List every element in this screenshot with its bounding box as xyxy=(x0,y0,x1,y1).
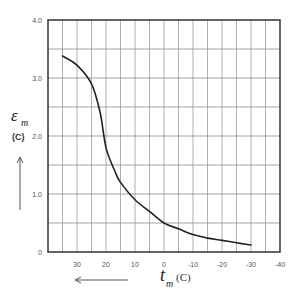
line-chart: 01.02.03.04.0 3020100-10-20-30-40 ε m (C… xyxy=(0,0,297,300)
y-axis-unit: (C) xyxy=(12,132,25,142)
y-axis-tick-labels: 01.02.03.04.0 xyxy=(32,17,42,256)
y-axis-subscript: m xyxy=(21,117,28,128)
x-tick-label: 10 xyxy=(131,261,139,268)
y-tick-label: 4.0 xyxy=(32,17,42,24)
x-tick-label: -20 xyxy=(217,261,227,268)
left-arrow-icon xyxy=(75,277,128,283)
x-tick-label: 30 xyxy=(73,261,81,268)
y-axis-symbol: ε xyxy=(11,106,18,125)
y-tick-label: 1.0 xyxy=(32,191,42,198)
x-axis-tick-labels: 3020100-10-20-30-40 xyxy=(73,261,285,268)
x-axis-subscript: m xyxy=(166,278,173,289)
x-axis-unit: (C) xyxy=(176,271,191,284)
data-curve xyxy=(63,56,252,245)
x-tick-label: -30 xyxy=(246,261,256,268)
y-tick-label: 3.0 xyxy=(32,75,42,82)
x-tick-label: -40 xyxy=(275,261,285,268)
x-tick-label: -10 xyxy=(188,261,198,268)
x-tick-label: 20 xyxy=(102,261,110,268)
grid-lines xyxy=(48,20,280,252)
y-axis-label: ε m (C) xyxy=(11,106,28,142)
x-axis-label: t m (C) xyxy=(160,265,191,289)
y-tick-label: 2.0 xyxy=(32,133,42,140)
up-arrow-icon xyxy=(17,157,23,210)
y-tick-label: 0 xyxy=(38,249,42,256)
